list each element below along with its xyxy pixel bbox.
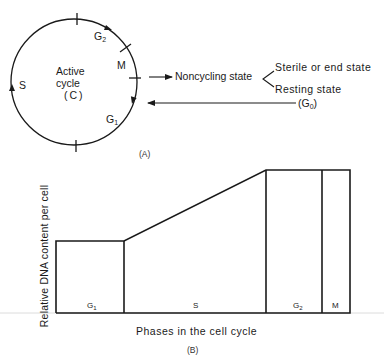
panel-b-caption: (B) — [187, 346, 198, 355]
phase-g1-sub: 1 — [114, 119, 118, 126]
phase-g1-base: G — [106, 113, 114, 125]
g0-label: (G0) — [298, 98, 317, 110]
bar-label-m: M — [332, 302, 339, 310]
bar-g2-sub: 2 — [299, 305, 302, 311]
phase-g2-base: G — [94, 30, 102, 42]
panel-a-caption: (A) — [139, 150, 150, 159]
bar-label-g2: G2 — [293, 302, 303, 311]
g0-close: ) — [314, 97, 318, 109]
sterile-state-label: Sterile or end state — [275, 62, 371, 73]
active-cycle-line2: cycle — [56, 78, 80, 89]
branch-bracket — [263, 71, 274, 87]
y-axis-label: Relative DNA content per cell — [38, 185, 50, 327]
x-axis-label: Phases in the cell cycle — [136, 326, 257, 337]
diagram-canvas — [0, 0, 384, 359]
g0-base: G — [302, 97, 310, 109]
dna-content-plot — [0, 170, 384, 313]
active-cycle-line3: (C) — [64, 90, 85, 101]
active-cycle-line1: Active — [56, 66, 85, 77]
phase-label-g2: G2 — [94, 31, 106, 43]
resting-state-label: Resting state — [275, 84, 341, 95]
noncycling-state-label: Noncycling state — [175, 71, 252, 82]
bar-label-g1: G1 — [87, 302, 97, 311]
phase-label-g1: G1 — [106, 114, 118, 126]
phase-label-m: M — [117, 60, 126, 71]
phase-g2-sub: 2 — [102, 36, 106, 43]
bar-label-s: S — [193, 302, 198, 310]
phase-label-s: S — [19, 80, 26, 91]
bar-g1-sub: 1 — [93, 305, 96, 311]
